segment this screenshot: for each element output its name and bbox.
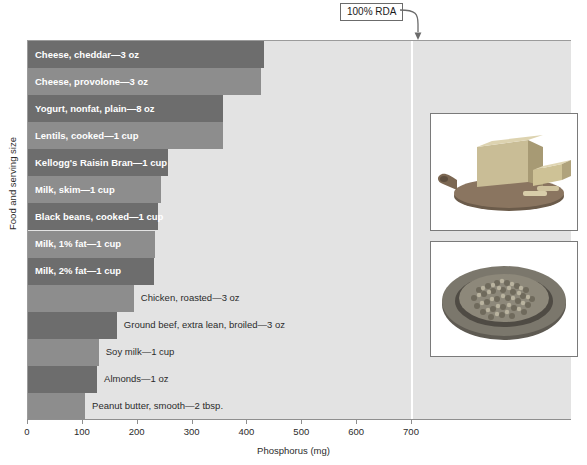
x-tick-label: 400 [238, 426, 254, 437]
bar-label: Black beans, cooked—1 cup [35, 212, 163, 222]
bar-row: Peanut butter, smooth—2 tbsp. [28, 393, 571, 420]
bar [28, 393, 85, 420]
bar-label: Ground beef, extra lean, broiled—3 oz [124, 320, 285, 330]
bar-label: Peanut butter, smooth—2 tbsp. [92, 402, 223, 412]
rda-callout-arrow-icon [398, 4, 430, 42]
bar-label: Soy milk—1 cup [106, 348, 175, 358]
bar-label: Milk, 2% fat—1 cup [35, 266, 121, 276]
phosphorus-bar-chart: 100% RDA Cheese, cheddar—3 ozCheese, pro… [0, 0, 587, 465]
x-tick-label: 100 [74, 426, 90, 437]
bar-label: Cheese, cheddar—3 oz [35, 50, 139, 60]
x-tick [356, 419, 357, 424]
lentils-photo-image [431, 242, 577, 356]
x-tick [82, 419, 83, 424]
bar [28, 312, 117, 339]
x-tick [192, 419, 193, 424]
x-tick [301, 419, 302, 424]
bar-label: Milk, 1% fat—1 cup [35, 239, 121, 249]
x-tick [27, 419, 28, 424]
bar [28, 339, 99, 366]
bar-label: Kellogg's Raisin Bran—1 cup [35, 158, 167, 168]
rda-callout-label: 100% RDA [340, 3, 403, 21]
cheese-photo [430, 113, 578, 231]
bar-row: Cheese, cheddar—3 oz [28, 41, 571, 68]
bar-label: Chicken, roasted—3 oz [141, 293, 240, 303]
bar-row: Cheese, provolone—3 oz [28, 68, 571, 95]
bar [28, 366, 97, 393]
x-tick [246, 419, 247, 424]
bar-label: Lentils, cooked—1 cup [35, 131, 138, 141]
bar-label: Cheese, provolone—3 oz [35, 77, 148, 87]
bar-label: Milk, skim—1 cup [35, 185, 115, 195]
bar [28, 285, 134, 312]
cheese-photo-image [431, 114, 577, 230]
x-tick [137, 419, 138, 424]
x-tick-label: 300 [184, 426, 200, 437]
x-axis-title: Phosphorus (mg) [0, 445, 587, 456]
x-tick-label: 0 [24, 426, 29, 437]
x-tick-label: 600 [348, 426, 364, 437]
x-tick-label: 500 [293, 426, 309, 437]
x-tick-label: 700 [403, 426, 419, 437]
lentils-photo [430, 241, 578, 357]
bar-row: Almonds—1 oz [28, 366, 571, 393]
y-axis-title: Food and serving size [7, 94, 18, 274]
x-tick-label: 200 [129, 426, 145, 437]
x-axis-line [27, 419, 571, 420]
bar-label: Almonds—1 oz [104, 375, 168, 385]
x-tick [411, 419, 412, 424]
bar-label: Yogurt, nonfat, plain—8 oz [35, 104, 155, 114]
